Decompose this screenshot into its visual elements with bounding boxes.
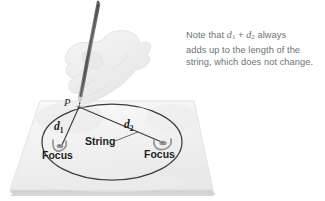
label-string: String [85, 135, 115, 147]
note-line1-plus-operator: + [235, 30, 246, 40]
label-focus-right: Focus [144, 148, 175, 160]
note-line1-prefix: Note that [186, 30, 227, 40]
annotation-note-line-3: string, which does not change. [186, 56, 322, 69]
label-focus-left: Focus [42, 149, 73, 161]
annotation-note: Note that d1 + d2 always adds up to the … [186, 29, 322, 69]
note-line1-variable-d2: d2 [246, 29, 255, 40]
annotation-note-line-1: Note that d1 + d2 always [186, 29, 322, 44]
label-point-p: P [63, 97, 71, 108]
annotation-note-line-2: adds up to the length of the [186, 44, 322, 57]
pencil-contact-shadow [75, 105, 85, 108]
note-line1-suffix: always [255, 30, 286, 40]
figure-container: P d1 d2 String Focus Focus Note that d1 … [0, 0, 325, 201]
hand-illustration [65, 31, 150, 104]
